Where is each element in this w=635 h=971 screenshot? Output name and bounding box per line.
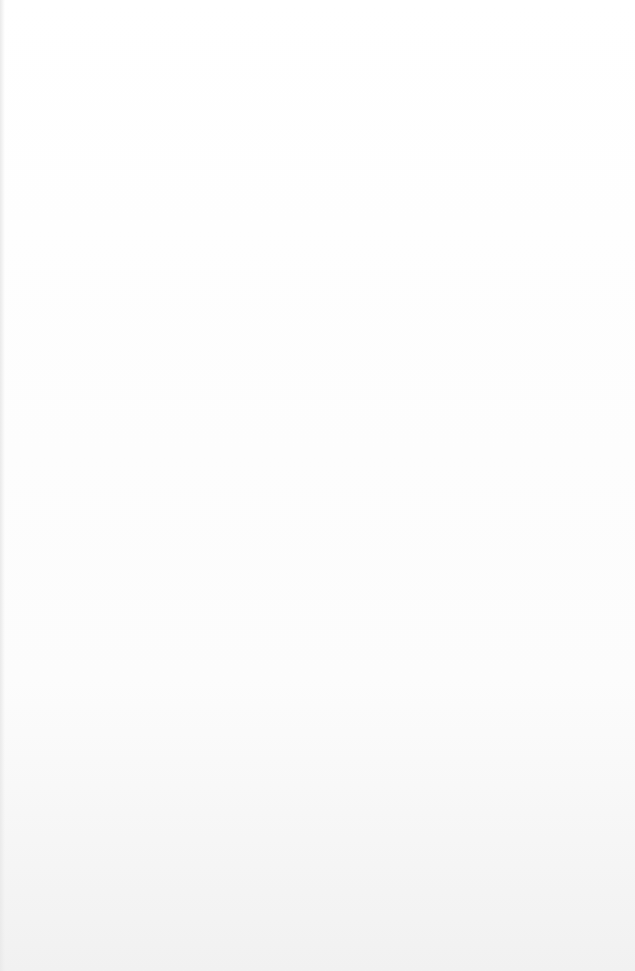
paper-edge-shadow [0, 0, 5, 971]
lined-paper [0, 0, 635, 971]
